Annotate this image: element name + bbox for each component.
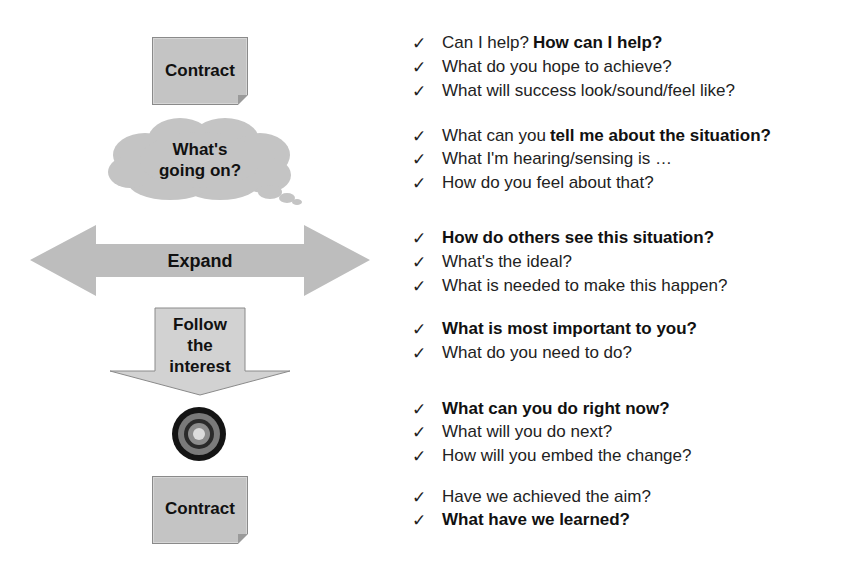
checkmark-icon: ✓ xyxy=(412,510,442,531)
cloud-label-line2: going on? xyxy=(140,161,260,181)
item-text: How will you embed the change? xyxy=(442,446,691,466)
item-text-bold: How can I help? xyxy=(533,33,662,53)
contract-top-label: Contract xyxy=(153,61,247,81)
checkmark-icon: ✓ xyxy=(412,252,442,273)
page-curl-icon xyxy=(238,534,248,544)
list-item: ✓ What can you tell me about the situati… xyxy=(412,125,771,147)
list-item: ✓ What's the ideal? xyxy=(412,251,572,273)
item-text: What is needed to make this happen? xyxy=(442,276,727,296)
list-item: ✓ What have we learned? xyxy=(412,509,630,531)
list-item: ✓ What is needed to make this happen? xyxy=(412,275,727,297)
contract-note-bottom: Contract xyxy=(152,476,248,544)
follow-label-line2: the xyxy=(150,336,250,356)
list-item: ✓ What can you do right now? xyxy=(412,398,670,420)
list-item: ✓ What do you need to do? xyxy=(412,342,632,364)
thought-cloud-icon xyxy=(100,110,310,210)
expand-label: Expand xyxy=(140,251,260,271)
checkmark-icon: ✓ xyxy=(412,33,442,54)
checkmark-icon: ✓ xyxy=(412,399,442,420)
item-text: How do you feel about that? xyxy=(442,173,654,193)
checkmark-icon: ✓ xyxy=(412,319,442,340)
checkmark-icon: ✓ xyxy=(412,57,442,78)
item-text: What do you hope to achieve? xyxy=(442,57,672,77)
list-item: ✓ Have we achieved the aim? xyxy=(412,486,651,508)
contract-bottom-label: Contract xyxy=(153,499,247,519)
item-text: What I'm hearing/sensing is … xyxy=(442,149,672,169)
checkmark-icon: ✓ xyxy=(412,173,442,194)
list-item: ✓ What will you do next? xyxy=(412,421,612,443)
cloud-label-line1: What's xyxy=(140,140,260,160)
target-icon xyxy=(171,406,227,462)
item-text-bold: What can you do right now? xyxy=(442,399,670,419)
checkmark-icon: ✓ xyxy=(412,422,442,443)
list-item: ✓ Can I help? How can I help? xyxy=(412,32,662,54)
page-curl-icon xyxy=(238,95,248,105)
item-text: Have we achieved the aim? xyxy=(442,487,651,507)
contract-note-top: Contract xyxy=(152,37,248,105)
checkmark-icon: ✓ xyxy=(412,81,442,102)
item-text: What can you xyxy=(442,126,546,146)
item-text: What's the ideal? xyxy=(442,252,572,272)
list-item: ✓ How do you feel about that? xyxy=(412,172,654,194)
checkmark-icon: ✓ xyxy=(412,276,442,297)
list-item: ✓ What I'm hearing/sensing is … xyxy=(412,148,672,170)
follow-label-line3: interest xyxy=(150,357,250,377)
checkmark-icon: ✓ xyxy=(412,446,442,467)
checkmark-icon: ✓ xyxy=(412,126,442,147)
item-text: What will success look/sound/feel like? xyxy=(442,81,735,101)
item-text: What will you do next? xyxy=(442,422,612,442)
item-text: What do you need to do? xyxy=(442,343,632,363)
list-item: ✓ What do you hope to achieve? xyxy=(412,56,672,78)
item-text-bold: What is most important to you? xyxy=(442,319,697,339)
list-item: ✓ What is most important to you? xyxy=(412,318,697,340)
follow-label-line1: Follow xyxy=(150,315,250,335)
list-item: ✓ How will you embed the change? xyxy=(412,445,691,467)
list-item: ✓ What will success look/sound/feel like… xyxy=(412,80,735,102)
item-text-bold: What have we learned? xyxy=(442,510,630,530)
item-text: Can I help? xyxy=(442,33,529,53)
item-text-bold: How do others see this situation? xyxy=(442,228,714,248)
checkmark-icon: ✓ xyxy=(412,343,442,364)
item-text-bold: tell me about the situation? xyxy=(550,126,771,146)
checkmark-icon: ✓ xyxy=(412,487,442,508)
list-item: ✓ How do others see this situation? xyxy=(412,227,714,249)
checkmark-icon: ✓ xyxy=(412,149,442,170)
checkmark-icon: ✓ xyxy=(412,228,442,249)
